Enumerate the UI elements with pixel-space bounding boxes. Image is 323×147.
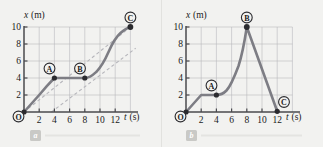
point-label-origin: O [175, 111, 186, 122]
marker-c [127, 24, 133, 30]
y-tick-label-8: 8 [16, 39, 21, 49]
x-axis-title-unit: (s) [292, 112, 302, 123]
caption-badge-b-text: b [190, 131, 194, 140]
point-label-b-text: B [77, 65, 83, 74]
marker-c [275, 109, 280, 114]
marker-b [244, 24, 250, 30]
y-tick-label-6: 6 [16, 56, 21, 66]
x-tick-label-4: 4 [214, 115, 219, 125]
x-tick-label-2: 2 [37, 115, 42, 125]
dashed-line-lower [51, 48, 135, 112]
y-tick-label-2: 2 [16, 90, 21, 100]
caption-badge-a-text: a [34, 131, 38, 140]
y-tick-label-6: 6 [178, 56, 183, 66]
chart-panel-b: O A B C 10 8 6 4 2 2 4 6 8 [162, 0, 323, 147]
y-tick-label-10: 10 [174, 22, 184, 32]
x-tick-label-12: 12 [272, 115, 282, 125]
chart-svg-b: O A B C 10 8 6 4 2 2 4 6 8 [162, 0, 323, 147]
point-label-c-text: C [128, 14, 134, 23]
point-label-b-text: B [244, 14, 250, 23]
x-tick-label-8: 8 [244, 115, 249, 125]
y-axis-title-var: x [185, 10, 191, 20]
x-axis-title-var: t [286, 112, 289, 122]
point-label-c: C [279, 97, 290, 108]
point-label-b: B [75, 63, 86, 74]
caption-badge-a: a [30, 130, 140, 141]
x-tick-label-6: 6 [229, 115, 234, 125]
marker-a [52, 75, 57, 80]
marker-b [82, 75, 87, 80]
x-axis-title-var: t [124, 112, 127, 122]
y-axis-title-unit: (m) [193, 10, 207, 21]
x-tick-label-6: 6 [67, 115, 72, 125]
chart-panel-a: O A B C 10 8 6 4 2 2 4 6 8 [0, 0, 161, 147]
point-label-c: C [125, 12, 136, 23]
grid-lines [186, 27, 292, 112]
chart-svg-a: O A B C 10 8 6 4 2 2 4 6 8 [0, 0, 161, 147]
point-label-a: A [206, 80, 217, 91]
marker-a [214, 92, 219, 97]
x-tick-label-4: 4 [52, 115, 57, 125]
x-axis-title-unit: (s) [130, 112, 140, 123]
point-label-origin: O [13, 111, 24, 122]
y-axis-title-var: x [23, 10, 29, 20]
x-tick-label-2: 2 [199, 115, 204, 125]
y-tick-label-4: 4 [178, 73, 183, 83]
point-label-origin-text: O [177, 113, 183, 122]
caption-badge-b: b [186, 130, 302, 141]
y-tick-label-2: 2 [178, 90, 183, 100]
point-label-c-text: C [281, 98, 287, 107]
y-tick-label-8: 8 [178, 39, 183, 49]
point-label-a: A [44, 63, 55, 74]
x-tick-label-8: 8 [82, 115, 87, 125]
point-label-a-text: A [209, 82, 215, 91]
figure-root: O A B C 10 8 6 4 2 2 4 6 8 [0, 0, 323, 147]
x-tick-label-10: 10 [257, 115, 267, 125]
point-label-origin-text: O [15, 113, 21, 122]
y-axis-title-unit: (m) [31, 10, 45, 21]
point-label-a-text: A [47, 65, 53, 74]
x-tick-label-10: 10 [95, 115, 105, 125]
x-tick-label-12: 12 [110, 115, 120, 125]
y-tick-label-4: 4 [16, 73, 21, 83]
y-tick-label-10: 10 [12, 22, 22, 32]
point-label-b: B [241, 12, 252, 23]
